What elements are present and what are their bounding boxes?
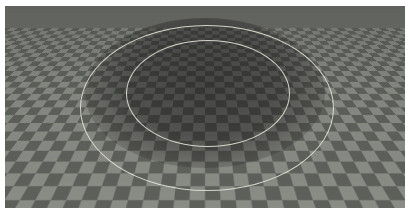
render-viewport — [5, 6, 405, 208]
inner-ring — [126, 40, 290, 147]
